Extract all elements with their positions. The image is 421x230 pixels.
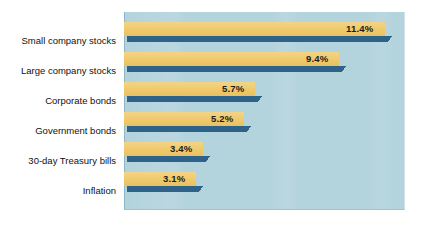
bar-shadow-cap-treasury-bills	[206, 156, 210, 162]
chart-figure: Small company stocks Large company stock…	[0, 0, 421, 230]
bar-shadow-large-company-stocks	[127, 66, 342, 72]
bar-shadow-corporate-bonds	[127, 96, 258, 102]
bar-value-corporate-bonds: 5.7%	[222, 82, 244, 96]
bar-shadow-cap-small-company-stocks	[388, 36, 392, 42]
bar-shadow-inflation	[127, 186, 199, 192]
bar-shadow-small-company-stocks	[127, 36, 388, 42]
bar-value-large-company-stocks: 9.4%	[306, 52, 328, 66]
plot-area: 11.4% 9.4% 5.7% 5.2% 3.4%	[124, 12, 405, 210]
bar-shadow-cap-large-company-stocks	[342, 66, 346, 72]
category-label-inflation: Inflation	[83, 184, 116, 198]
category-axis-labels: Small company stocks Large company stock…	[0, 12, 120, 210]
bar-shadow-treasury-bills	[127, 156, 206, 162]
category-label-government-bonds: Government bonds	[35, 124, 116, 138]
bar-value-treasury-bills: 3.4%	[170, 142, 192, 156]
bar-value-government-bonds: 5.2%	[211, 112, 233, 126]
bar-value-inflation: 3.1%	[163, 172, 185, 186]
category-label-corporate-bonds: Corporate bonds	[45, 94, 116, 108]
bar-value-small-company-stocks: 11.4%	[346, 22, 373, 36]
category-label-small-company-stocks: Small company stocks	[21, 34, 116, 48]
bar-shadow-cap-inflation	[199, 186, 203, 192]
category-label-treasury-bills: 30-day Treasury bills	[28, 154, 116, 168]
bar-shadow-cap-corporate-bonds	[258, 96, 262, 102]
bar-shadow-cap-government-bonds	[247, 126, 251, 132]
category-label-large-company-stocks: Large company stocks	[21, 64, 116, 78]
bar-shadow-government-bonds	[127, 126, 247, 132]
